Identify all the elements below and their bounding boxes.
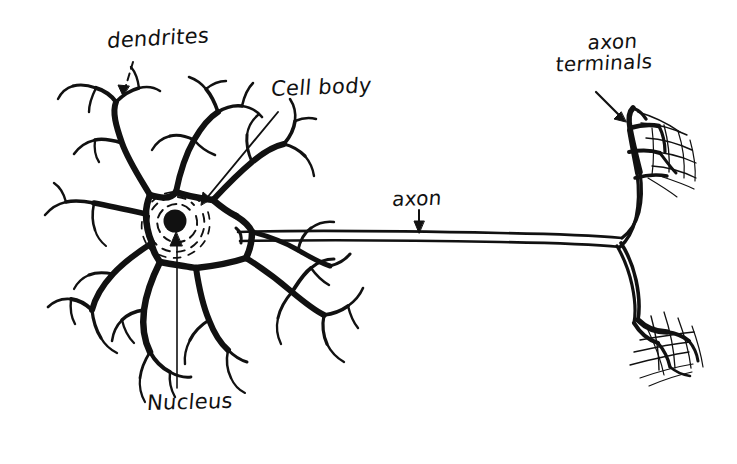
- nucleus-dot: [164, 210, 187, 233]
- label-axon-terminals-line2: terminals: [555, 51, 653, 75]
- neuron-diagram-canvas: dendrites Cell body axon axonterminals N…: [0, 0, 737, 464]
- label-cell-body: Cell body: [270, 74, 372, 100]
- label-nucleus: Nucleus: [146, 390, 233, 414]
- label-axon: axon: [391, 188, 442, 210]
- axon-terminals-leader-arrow: [596, 92, 626, 122]
- dendrite-trees: [45, 67, 363, 402]
- label-axon-terminals: axonterminals: [569, 30, 655, 75]
- leader-lines: [118, 62, 626, 388]
- axon-leader-arrow: [414, 210, 424, 233]
- label-dendrites: dendrites: [107, 24, 210, 52]
- lower-terminal-tuft: [630, 312, 703, 386]
- cell-body-leader-arrow: [201, 112, 278, 205]
- nucleus-leader-arrow: [170, 232, 182, 388]
